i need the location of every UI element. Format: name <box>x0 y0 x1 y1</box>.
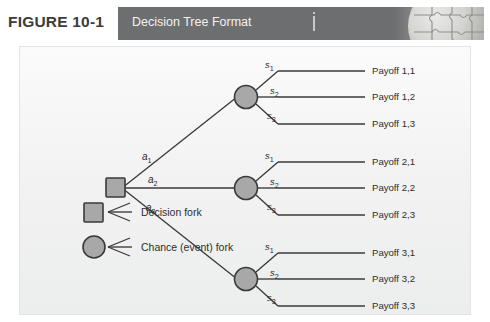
chance-node-circle-3 <box>235 268 258 291</box>
legend-square-icon <box>84 203 103 222</box>
state-label-1-1: s1 <box>265 59 274 73</box>
state-label-1-3: s3 <box>267 110 276 124</box>
legend-square-fork-lines-icon <box>108 203 132 221</box>
decision-node-square <box>106 178 125 197</box>
figure-header: FIGURE 10-1 Decision Tree Format <box>0 0 490 48</box>
banner-divider <box>313 16 315 31</box>
legend-item-chance-fork: Chance (event) fork <box>141 241 233 253</box>
action-label-a2: a2 <box>148 174 158 188</box>
payoff-label-2-2: Payoff 2,2 <box>372 182 415 193</box>
action-branch-a3 <box>122 188 237 279</box>
payoff-label-2-3: Payoff 2,3 <box>372 209 415 220</box>
state-label-1-2: s2 <box>270 85 279 99</box>
figure-banner: Decision Tree Format <box>118 7 484 40</box>
figure-number: FIGURE 10-1 <box>8 13 104 31</box>
state-label-3-2: s2 <box>270 267 279 281</box>
state-label-2-1: s1 <box>265 150 274 164</box>
state-label-2-2: s2 <box>270 176 279 190</box>
chance-node-circle-1 <box>235 86 258 109</box>
legend-item-decision-fork: Decision fork <box>141 206 202 218</box>
action-label-a1: a1 <box>142 151 152 165</box>
legend-circle-fork-lines-icon <box>108 238 132 256</box>
payoff-label-1-2: Payoff 1,2 <box>372 91 415 102</box>
state-label-2-3: s3 <box>267 201 276 215</box>
puzzle-sphere-lines-icon <box>408 7 484 40</box>
banner-title: Decision Tree Format <box>132 15 251 29</box>
payoff-label-3-3: Payoff 3,3 <box>372 300 415 311</box>
payoff-label-3-1: Payoff 3,1 <box>372 247 415 258</box>
figure-panel: a1 a2 a3 s1 s2 s3 s1 s2 s3 s1 s2 s3 Payo… <box>19 46 471 315</box>
payoff-label-2-1: Payoff 2,1 <box>372 156 415 167</box>
state-label-3-1: s1 <box>265 241 274 255</box>
payoff-label-1-1: Payoff 1,1 <box>372 65 415 76</box>
legend-circle-icon <box>83 236 105 258</box>
payoff-label-1-3: Payoff 1,3 <box>372 118 415 129</box>
chance-node-circle-2 <box>235 177 258 200</box>
action-branch-a1 <box>122 97 237 188</box>
state-label-3-3: s3 <box>267 292 276 306</box>
payoff-label-3-2: Payoff 3,2 <box>372 273 415 284</box>
